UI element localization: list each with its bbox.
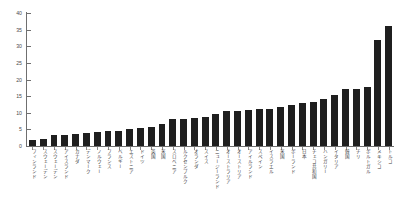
bar-slot <box>275 13 286 146</box>
category-slot: チリ <box>351 149 362 205</box>
category-label: オーストラリア <box>224 149 229 184</box>
category-label: スウェーデン <box>52 149 57 179</box>
bar-slot <box>189 13 200 146</box>
bar <box>126 129 133 146</box>
category-label: ポルトガル <box>365 149 370 174</box>
category-label: スロベニア <box>170 149 175 174</box>
bar <box>212 114 219 146</box>
category-label: スウェーデン <box>41 149 46 179</box>
category-slot: スウェーデン <box>49 149 60 205</box>
bar <box>29 140 36 146</box>
category-slot: メキシコ <box>373 149 384 205</box>
category-label: 英国 <box>149 149 154 159</box>
bar <box>159 124 166 146</box>
bar <box>40 139 47 146</box>
y-axis-tick-label: 0 <box>0 143 22 149</box>
bar <box>234 111 241 146</box>
bar <box>72 134 79 146</box>
bar <box>148 127 155 146</box>
category-label: ベルギー <box>116 149 121 169</box>
category-label: オーストリア <box>235 149 240 179</box>
category-label: オランダ <box>192 149 197 169</box>
category-slot: フィンランド <box>27 149 38 205</box>
bar <box>169 119 176 146</box>
bar <box>353 89 360 146</box>
bar-slot <box>351 13 362 146</box>
category-slot: トルコ <box>383 149 394 205</box>
bar <box>277 107 284 146</box>
category-label: ニュージーランド <box>214 149 219 189</box>
bar-slot <box>383 13 394 146</box>
category-label: ハンガリー <box>322 149 327 174</box>
bar <box>320 99 327 146</box>
bar-slot <box>286 13 297 146</box>
category-label: ドイツ <box>138 149 143 164</box>
category-slot: エストニア <box>124 149 135 205</box>
bar-slot <box>70 13 81 146</box>
category-label: 韓国 <box>343 149 348 159</box>
bar-slot <box>103 13 114 146</box>
category-slot: 韓国 <box>340 149 351 205</box>
category-label: 米国 <box>160 149 165 159</box>
bar <box>299 103 306 146</box>
category-slot: ベルギー <box>113 149 124 205</box>
category-slot: オーストラリア <box>221 149 232 205</box>
category-label: アイルランド <box>246 149 251 179</box>
x-axis-line <box>26 146 394 147</box>
category-label: メキシコ <box>376 149 381 169</box>
bar-slot <box>38 13 49 146</box>
bar <box>256 109 263 146</box>
category-slot: オーストリア <box>232 149 243 205</box>
category-slot: ポーランド <box>286 149 297 205</box>
bar-slot <box>232 13 243 146</box>
bar <box>61 135 68 146</box>
category-slot: ハンガリー <box>319 149 330 205</box>
category-slot: イタリア <box>329 149 340 205</box>
category-slot: デンマーク <box>81 149 92 205</box>
category-label: フィンランド <box>30 149 35 179</box>
bar <box>137 128 144 146</box>
bar-slot <box>27 13 38 146</box>
bar-slot <box>124 13 135 146</box>
y-axis-tick-label: 25 <box>0 60 22 66</box>
y-axis-tick-label: 30 <box>0 43 22 49</box>
category-label: フランス <box>106 149 111 169</box>
category-slot: スペイン <box>254 149 265 205</box>
bar-slot <box>221 13 232 146</box>
category-slot: ポルトガル <box>362 149 373 205</box>
bar <box>180 119 187 146</box>
category-label: エストニア <box>127 149 132 174</box>
y-axis-tick-label: 15 <box>0 93 22 99</box>
category-slot: ニュージーランド <box>211 149 222 205</box>
bar <box>202 117 209 146</box>
bar-slot <box>340 13 351 146</box>
bar <box>310 102 317 146</box>
bar <box>223 111 230 146</box>
bar-slot <box>157 13 168 146</box>
category-label: スイス <box>203 149 208 164</box>
category-slot: スウェーデン <box>38 149 49 205</box>
bar <box>115 131 122 146</box>
category-label: トルコ <box>386 149 391 164</box>
bar-slot <box>329 13 340 146</box>
bar-slot <box>146 13 157 146</box>
bar <box>266 109 273 146</box>
category-label: イタリア <box>332 149 337 169</box>
bar-series <box>27 13 394 146</box>
bar-slot <box>81 13 92 146</box>
category-slot: ドイツ <box>135 149 146 205</box>
y-axis-tick-label: 5 <box>0 126 22 132</box>
category-label: チリ <box>354 149 359 159</box>
category-slot: アイスランド <box>59 149 70 205</box>
category-label: 日本 <box>300 149 305 159</box>
bar <box>385 26 392 146</box>
bar-slot <box>265 13 276 146</box>
bar-slot <box>319 13 330 146</box>
category-slot: スイス <box>200 149 211 205</box>
bar <box>374 40 381 146</box>
bar <box>94 132 101 146</box>
category-slot: スロベニア <box>167 149 178 205</box>
bar <box>191 118 198 146</box>
bar-slot <box>167 13 178 146</box>
category-slot: 米国 <box>157 149 168 205</box>
